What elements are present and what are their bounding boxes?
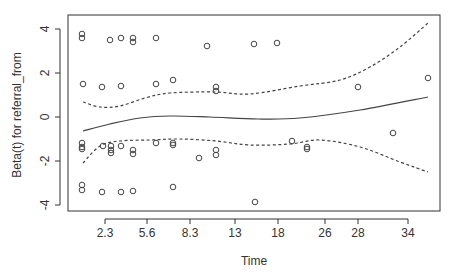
data-point: [274, 40, 280, 46]
plot-box: [68, 15, 440, 211]
y-axis-label: Beta(t) for referral_from: [10, 52, 24, 177]
data-point: [289, 138, 295, 144]
data-point: [153, 81, 159, 87]
x-tick-label: 8.3: [182, 226, 199, 240]
data-point: [251, 41, 257, 47]
curves: [83, 23, 428, 172]
data-point: [204, 43, 210, 49]
data-point: [118, 83, 124, 89]
data-point: [425, 75, 431, 81]
data-point: [130, 151, 136, 157]
data-point: [80, 81, 86, 87]
data-point: [130, 188, 136, 194]
y-tick-label: -2: [38, 155, 52, 166]
x-axis: 2.35.68.31318262834: [97, 219, 415, 240]
scatter-points: [79, 31, 431, 205]
data-point: [99, 84, 105, 90]
confidence-band-line: [83, 139, 428, 172]
data-point: [118, 189, 124, 195]
x-tick-label: 26: [318, 226, 332, 240]
y-tick-label: 4: [38, 25, 52, 32]
data-point: [153, 140, 159, 146]
data-point: [196, 155, 202, 161]
data-point: [170, 77, 176, 83]
y-tick-label: -4: [38, 199, 52, 210]
estimate-line: [83, 97, 428, 131]
data-point: [252, 199, 258, 205]
data-point: [107, 37, 113, 43]
data-point: [170, 184, 176, 190]
data-point: [390, 130, 396, 136]
x-tick-label: 28: [351, 226, 365, 240]
data-point: [118, 143, 124, 149]
y-axis: -4-2024: [38, 25, 60, 210]
data-point: [79, 35, 85, 41]
y-tick-label: 0: [38, 113, 52, 120]
x-tick-label: 34: [401, 226, 415, 240]
data-point: [213, 88, 219, 94]
x-tick-label: 13: [228, 226, 242, 240]
x-tick-label: 2.3: [97, 226, 114, 240]
data-point: [99, 189, 105, 195]
data-point: [118, 35, 124, 41]
data-point: [130, 39, 136, 45]
x-tick-label: 18: [271, 226, 285, 240]
x-axis-label: Time: [241, 254, 268, 268]
chart-svg: -4-2024 2.35.68.31318262834 Time Beta(t)…: [0, 0, 455, 278]
data-point: [355, 84, 361, 90]
x-tick-label: 5.6: [139, 226, 156, 240]
data-point: [153, 35, 159, 41]
y-tick-label: 2: [38, 69, 52, 76]
